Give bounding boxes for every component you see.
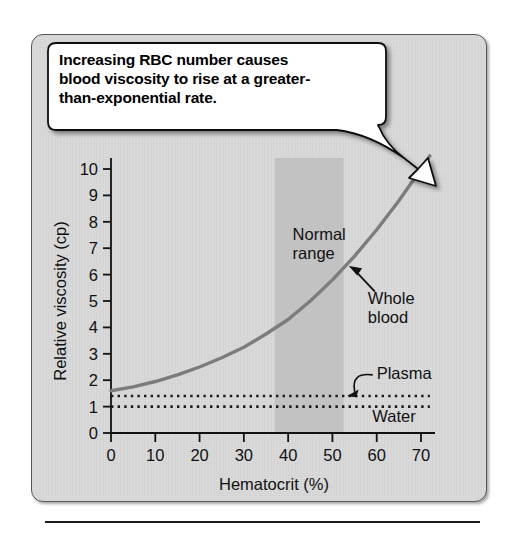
x-tick-label: 0 (106, 446, 115, 464)
viscosity-chart: 012345678910 010203040506070 Relative vi… (32, 35, 488, 503)
x-tick-label: 70 (412, 446, 430, 464)
x-axis-title: Hematocrit (%) (219, 475, 329, 493)
y-tick-label: 4 (89, 318, 98, 336)
annotation-label: blood (368, 308, 408, 326)
normal-range-band (275, 158, 344, 433)
y-tick-label: 6 (89, 266, 98, 284)
y-tick-label: 10 (80, 160, 98, 178)
y-tick-label: 7 (89, 239, 98, 257)
annotation-label: Normal (293, 225, 346, 243)
y-axis-ticks (103, 169, 111, 433)
plasma-arrow-head (349, 391, 358, 397)
series-whole-blood (111, 156, 430, 391)
x-tick-label: 30 (235, 446, 253, 464)
bottom-rule-divider (45, 521, 480, 523)
whole-blood-arrow-head (350, 267, 361, 275)
x-tick-label: 50 (323, 446, 341, 464)
x-axis-tick-labels: 010203040506070 (106, 446, 430, 464)
y-tick-label: 1 (89, 398, 98, 416)
y-axis-title: Relative viscosity (cp) (51, 221, 69, 381)
figure-panel: 012345678910 010203040506070 Relative vi… (31, 34, 487, 502)
annotation-label: range (293, 244, 335, 262)
x-tick-label: 60 (368, 446, 386, 464)
annotation-label: Plasma (377, 364, 433, 382)
annotation-label: Water (372, 407, 416, 425)
y-tick-label: 0 (89, 424, 98, 442)
y-tick-label: 9 (89, 186, 98, 204)
x-tick-label: 20 (190, 446, 208, 464)
y-axis-tick-labels: 012345678910 (80, 160, 98, 442)
plasma-arrow-line (354, 374, 373, 391)
x-tick-label: 40 (279, 446, 297, 464)
x-tick-label: 10 (146, 446, 164, 464)
y-tick-label: 5 (89, 292, 98, 310)
y-tick-label: 8 (89, 213, 98, 231)
x-axis-ticks (111, 433, 421, 442)
y-tick-label: 3 (89, 345, 98, 363)
y-tick-label: 2 (89, 371, 98, 389)
